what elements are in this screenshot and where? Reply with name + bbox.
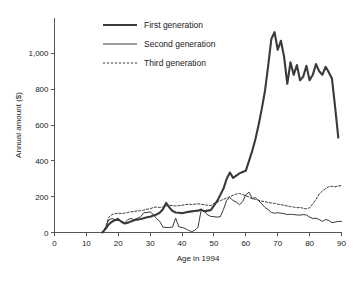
chart-container: 02004006008001,000 0102030405060708090 A… xyxy=(0,0,359,281)
legend-item: First generation xyxy=(103,20,203,30)
x-tick-label: 30 xyxy=(146,239,155,248)
x-tick-label: 70 xyxy=(273,239,282,248)
line-chart: 02004006008001,000 0102030405060708090 A… xyxy=(0,0,359,281)
x-tick-label: 40 xyxy=(178,239,187,248)
y-tick-label: 600 xyxy=(35,121,49,130)
x-tick-label: 20 xyxy=(114,239,123,248)
y-tick-label: 800 xyxy=(35,85,49,94)
x-tick-label: 0 xyxy=(52,239,57,248)
legend-label: Third generation xyxy=(144,58,206,68)
series-line-second-generation xyxy=(102,192,341,232)
x-axis-tick-labels: 0102030405060708090 xyxy=(52,239,346,248)
chart-legend: First generationSecond generationThird g… xyxy=(103,20,216,68)
series-line-first-generation xyxy=(102,32,338,232)
y-axis-tick-labels: 02004006008001,000 xyxy=(28,49,49,237)
x-axis-title: Age in 1994 xyxy=(177,254,220,263)
y-tick-label: 200 xyxy=(35,193,49,202)
y-axis-title: Annual amount ($) xyxy=(14,92,23,158)
y-axis-tick-group xyxy=(51,53,55,232)
y-tick-label: 0 xyxy=(44,229,49,238)
x-tick-label: 90 xyxy=(337,239,346,248)
legend-label: Second generation xyxy=(144,39,216,49)
legend-item: Second generation xyxy=(103,39,216,49)
x-tick-label: 50 xyxy=(209,239,218,248)
x-tick-label: 10 xyxy=(82,239,91,248)
legend-item: Third generation xyxy=(103,58,206,68)
y-tick-label: 1,000 xyxy=(28,49,49,58)
y-tick-label: 400 xyxy=(35,157,49,166)
legend-label: First generation xyxy=(144,20,203,30)
x-tick-label: 60 xyxy=(241,239,250,248)
x-tick-label: 80 xyxy=(305,239,314,248)
x-axis-tick-group xyxy=(55,233,342,237)
